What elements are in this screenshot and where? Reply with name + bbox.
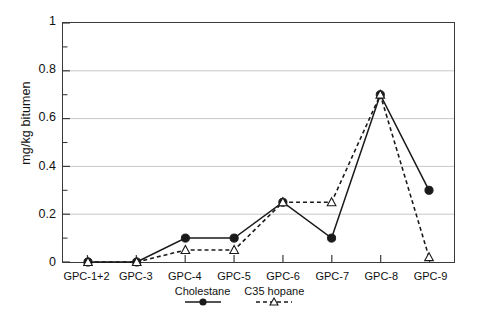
data-point bbox=[425, 186, 433, 194]
data-point bbox=[230, 234, 238, 242]
x-tick-label: GPC-1+2 bbox=[63, 270, 109, 282]
x-tick-label: GPC-6 bbox=[266, 270, 300, 282]
series-line-1 bbox=[88, 95, 429, 262]
y-tick-label: 0.4 bbox=[14, 160, 56, 172]
x-tick-label: GPC-3 bbox=[119, 270, 153, 282]
legend-entry-0[interactable]: Cholestane bbox=[175, 285, 231, 307]
x-tick-label: GPC-8 bbox=[365, 270, 399, 282]
legend-label: Cholestane bbox=[175, 285, 231, 297]
y-tick-label: 0.6 bbox=[14, 111, 56, 123]
plot-area bbox=[62, 22, 455, 263]
x-tick-label: GPC-5 bbox=[217, 270, 251, 282]
chart-legend: CholestaneC35 hopane bbox=[0, 285, 479, 307]
x-tick-label: GPC-9 bbox=[414, 270, 448, 282]
y-tick-label: 1 bbox=[14, 15, 56, 27]
legend-label: C35 hopane bbox=[244, 285, 304, 297]
data-point bbox=[327, 198, 336, 206]
data-point bbox=[230, 245, 239, 253]
data-layer bbox=[63, 23, 454, 262]
legend-inner: CholestaneC35 hopane bbox=[168, 285, 312, 307]
data-point bbox=[181, 234, 189, 242]
data-point bbox=[181, 245, 190, 253]
data-point bbox=[328, 234, 336, 242]
y-tick-label: 0 bbox=[14, 256, 56, 268]
legend-marker-sample bbox=[175, 297, 231, 307]
legend-entry-1[interactable]: C35 hopane bbox=[244, 285, 304, 307]
x-tick-label: GPC-7 bbox=[315, 270, 349, 282]
chart-figure: mg/kg bitumen 00.20.40.60.81 GPC-1+2GPC-… bbox=[0, 0, 479, 317]
series-line-0 bbox=[88, 95, 429, 262]
x-tick-label: GPC-4 bbox=[168, 270, 202, 282]
legend-marker-sample bbox=[244, 297, 304, 307]
y-tick-label: 0.2 bbox=[14, 208, 56, 220]
data-point bbox=[425, 253, 434, 261]
y-tick-label: 0.8 bbox=[14, 63, 56, 75]
